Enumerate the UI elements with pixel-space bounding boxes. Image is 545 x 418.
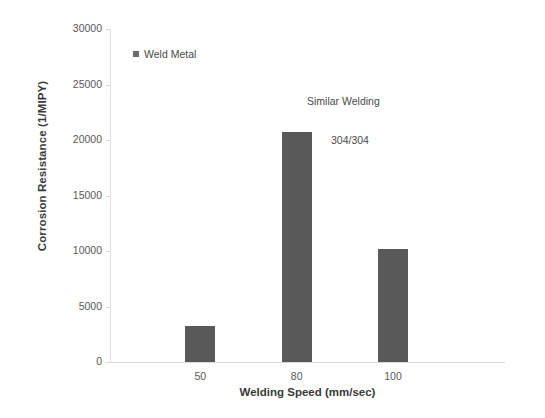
plot-area: 050001000015000200002500030000 5080100 <box>110 29 505 362</box>
y-tick-mark <box>106 196 110 197</box>
x-axis-line <box>110 362 505 363</box>
bar <box>185 326 215 362</box>
x-tick-label: 80 <box>267 370 327 382</box>
y-tick-mark <box>106 85 110 86</box>
y-tick-mark <box>106 251 110 252</box>
x-axis-title: Welding Speed (mm/sec) <box>110 386 505 398</box>
y-tick-mark <box>106 362 110 363</box>
y-tick-label: 5000 <box>46 300 102 314</box>
legend-label: Weld Metal <box>144 48 196 60</box>
annotation-material-grade: 304/304 <box>331 134 369 146</box>
y-tick-mark <box>106 307 110 308</box>
chart-legend: Weld Metal <box>133 48 196 60</box>
x-tick-label: 50 <box>170 370 230 382</box>
bar-chart-figure: Corrosion Resistance (1/MIPY) 0500010000… <box>0 0 545 418</box>
annotation-similar-welding: Similar Welding <box>307 95 380 107</box>
y-axis-line <box>110 29 111 362</box>
y-tick-label: 15000 <box>46 189 102 203</box>
y-tick-mark <box>106 140 110 141</box>
bar <box>378 249 408 362</box>
x-tick-label: 100 <box>363 370 423 382</box>
y-tick-label: 0 <box>46 355 102 369</box>
legend-swatch-icon <box>133 51 139 57</box>
bar <box>282 132 312 362</box>
y-tick-label: 10000 <box>46 244 102 258</box>
y-tick-label: 30000 <box>46 22 102 36</box>
y-tick-mark <box>106 29 110 30</box>
y-tick-label: 25000 <box>46 78 102 92</box>
y-tick-label: 20000 <box>46 133 102 147</box>
